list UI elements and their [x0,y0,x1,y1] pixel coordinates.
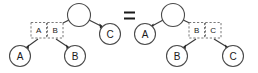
dashed-box-b-label: B [194,26,199,35]
left-tree-root-node[interactable] [68,4,91,27]
right-tree-box-b[interactable]: B [189,23,205,39]
right-tree: B C A B C [135,4,244,67]
leaf-a-label: A [142,29,149,40]
equals-bar-top [124,12,135,14]
dashed-box-a-label: A [36,26,42,35]
right-tree-root-node[interactable] [162,4,185,27]
leaf-a-label: A [17,51,24,62]
edge-box-c-to-leaf-c [214,39,227,47]
leaf-c-label: C [229,51,236,62]
equals-bar-bottom [124,18,135,20]
leaf-c-label: C [106,29,113,40]
dashed-box-c-label: C [210,26,216,35]
left-tree-leaf-c[interactable]: C [100,24,121,45]
left-tree-leaf-b[interactable]: B [65,46,86,67]
left-tree-box-a[interactable]: A [31,23,47,39]
left-tree-leaf-a[interactable]: A [10,46,31,67]
right-tree-box-c[interactable]: C [206,23,222,39]
root-circle[interactable] [68,4,91,27]
leaf-b-label: B [174,51,181,62]
right-tree-leaf-a[interactable]: A [135,24,156,45]
equals-symbol: = [124,12,135,20]
left-tree: A B A B C [10,4,121,67]
right-tree-leaf-b[interactable]: B [167,46,188,67]
tree-equivalence-diagram: A B A B C = [0,0,258,73]
diagram-canvas: A B A B C = [0,0,258,73]
leaf-b-label: B [72,51,79,62]
root-circle[interactable] [162,4,185,27]
left-tree-box-b[interactable]: B [48,23,64,39]
right-tree-leaf-c[interactable]: C [223,46,244,67]
dashed-box-b-label: B [53,26,58,35]
